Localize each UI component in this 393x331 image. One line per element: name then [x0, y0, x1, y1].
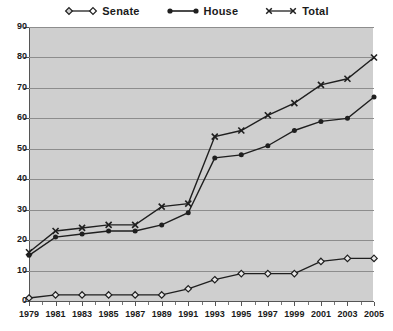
series-total: [26, 54, 377, 255]
open-diamond-icon: [344, 255, 350, 261]
filled-circle-icon: [53, 235, 58, 240]
open-diamond-icon: [371, 255, 377, 261]
filled-circle-icon: [318, 119, 323, 124]
cross-x-icon: [291, 100, 297, 106]
filled-circle-icon: [212, 155, 217, 160]
open-diamond-icon: [185, 286, 191, 292]
series-senate: [26, 255, 377, 301]
filled-circle-icon: [372, 95, 377, 100]
open-diamond-icon: [265, 270, 271, 276]
open-diamond-icon: [318, 258, 324, 264]
open-diamond-icon: [238, 270, 244, 276]
cross-x-icon: [371, 54, 377, 60]
open-diamond-icon: [52, 292, 58, 298]
filled-circle-icon: [106, 228, 111, 233]
open-diamond-icon: [158, 292, 164, 298]
filled-circle-icon: [292, 128, 297, 133]
series-line: [29, 258, 374, 298]
open-diamond-icon: [132, 292, 138, 298]
filled-circle-icon: [265, 143, 270, 148]
series-layer: [0, 0, 393, 331]
open-diamond-icon: [79, 292, 85, 298]
filled-circle-icon: [159, 222, 164, 227]
open-diamond-icon: [291, 270, 297, 276]
open-diamond-icon: [105, 292, 111, 298]
filled-circle-icon: [133, 228, 138, 233]
filled-circle-icon: [239, 152, 244, 157]
filled-circle-icon: [345, 116, 350, 121]
series-house: [27, 95, 377, 258]
line-chart: Senate House Total 0102030405060708: [0, 0, 393, 331]
filled-circle-icon: [186, 210, 191, 215]
cross-x-icon: [265, 112, 271, 118]
open-diamond-icon: [26, 295, 32, 301]
filled-circle-icon: [80, 232, 85, 237]
open-diamond-icon: [212, 276, 218, 282]
